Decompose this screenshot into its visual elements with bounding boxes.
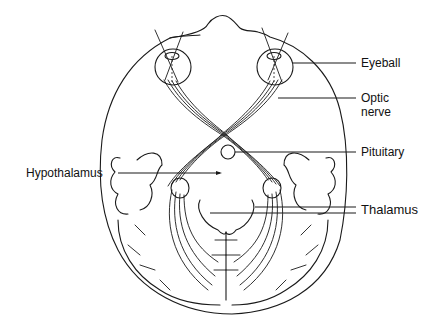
label-optic-nerve-line1: Optic (361, 91, 389, 105)
label-thalamus: Thalamus (361, 203, 418, 217)
geniculate-bodies (171, 178, 281, 198)
pituitary-gland (221, 145, 235, 159)
left-eyeball (155, 30, 191, 85)
right-eyeball (257, 28, 293, 85)
optic-nerves (164, 80, 282, 186)
label-eyeball: Eyeball (361, 56, 400, 70)
thalamus-region (199, 200, 254, 300)
label-pituitary: Pituitary (361, 145, 404, 159)
right-temporal-lobe (232, 153, 335, 305)
left-temporal-lobe (111, 153, 220, 305)
label-optic-nerve-line2: nerve (361, 105, 391, 119)
visual-pathway-diagram (0, 0, 446, 319)
label-hypothalamus: Hypothalamus (26, 166, 103, 180)
hypothalamus-arrowhead (216, 171, 222, 175)
leader-lines (118, 63, 356, 213)
